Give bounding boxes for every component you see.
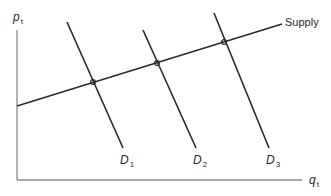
demand-label-1-text: D [120, 153, 129, 167]
demand-label-2-text: D [193, 153, 202, 167]
y-axis-label-subscript: t [21, 17, 23, 26]
demand-label-2-subscript: 2 [203, 160, 207, 169]
y-axis-label-text: p [13, 10, 20, 24]
supply-demand-diagram [0, 0, 331, 196]
demand-label-1-subscript: 1 [130, 160, 134, 169]
demand-curve-2 [143, 30, 196, 148]
x-axis-label: qt [309, 174, 319, 189]
demand-curve-1 [67, 22, 123, 148]
demand-label-1: D1 [120, 154, 134, 169]
x-axis-label-text: q [309, 173, 316, 187]
y-axis-label: pt [13, 11, 23, 26]
demand-label-3: D3 [266, 154, 280, 169]
demand-label-3-subscript: 3 [276, 160, 280, 169]
supply-label: Supply [285, 17, 319, 28]
demand-curve-3 [214, 13, 269, 148]
supply-curve [17, 24, 282, 106]
x-axis-label-subscript: t [317, 180, 319, 189]
demand-label-3-text: D [266, 153, 275, 167]
demand-label-2: D2 [193, 154, 207, 169]
